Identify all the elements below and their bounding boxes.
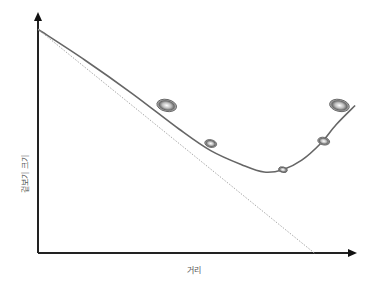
series-linear-extrapolation [38, 29, 314, 253]
diagram-canvas [0, 0, 380, 287]
series-layer [38, 29, 355, 253]
galaxy-5-icon [328, 97, 350, 113]
galaxy-3-icon [278, 166, 288, 173]
objects-layer [156, 97, 351, 173]
x-axis-label: 거리 [187, 264, 201, 275]
x-axis-arrow-icon [348, 249, 357, 257]
y-axis-label: 겉보기 크기 [19, 155, 30, 193]
series-apparent-size-curve [38, 29, 355, 172]
axes [34, 12, 357, 257]
galaxy-1-icon [156, 97, 178, 113]
y-axis-arrow-icon [34, 12, 42, 21]
